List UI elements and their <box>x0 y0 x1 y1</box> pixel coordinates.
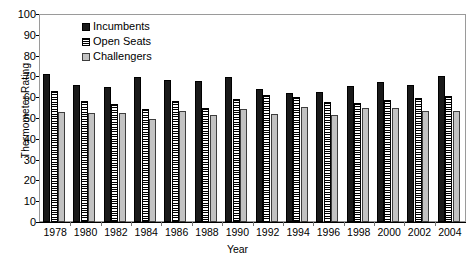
bar-challengers <box>392 108 399 222</box>
x-tick-mark <box>404 222 405 226</box>
legend-label-challengers: Challengers <box>93 51 152 62</box>
x-tick-label: 1990 <box>222 226 252 238</box>
bar-group <box>222 14 252 222</box>
bar-incumbents <box>43 74 50 222</box>
bar-open-seats <box>415 98 422 222</box>
legend-item-incumbents: Incumbents <box>82 19 152 34</box>
y-tick-label: 100 <box>10 10 36 18</box>
x-tick-label: 2002 <box>404 226 434 238</box>
x-tick-label: 1982 <box>101 226 131 238</box>
thermometer-rating-bar-chart: Thermometer Rating 010203040506070809010… <box>0 0 475 261</box>
bar-group <box>344 14 374 222</box>
y-tick-mark <box>36 201 39 202</box>
y-tick-label: 60 <box>10 93 36 101</box>
bar-challengers <box>331 115 338 222</box>
y-tick-mark <box>36 180 39 181</box>
x-tick-mark <box>101 222 102 226</box>
y-tick-mark <box>36 14 39 15</box>
y-tick-mark <box>36 160 39 161</box>
bar-challengers <box>119 113 126 222</box>
legend-item-open-seats: Open Seats <box>82 34 152 49</box>
bar-incumbents <box>377 82 384 222</box>
bar-open-seats <box>51 91 58 222</box>
x-tick-mark <box>222 222 223 226</box>
bar-incumbents <box>286 93 293 222</box>
bar-challengers <box>271 114 278 222</box>
y-tick-mark <box>36 56 39 57</box>
bar-challengers <box>453 111 460 222</box>
x-tick-mark <box>435 222 436 226</box>
x-tick-label: 2004 <box>435 226 465 238</box>
x-tick-label: 1992 <box>253 226 283 238</box>
x-tick-mark <box>344 222 345 226</box>
bar-group <box>435 14 465 222</box>
y-tick-label: 0 <box>10 218 36 226</box>
x-tick-label: 1980 <box>70 226 100 238</box>
bar-challengers <box>88 113 95 222</box>
x-tick-label: 1984 <box>131 226 161 238</box>
legend-swatch-open-seats-icon <box>82 38 90 46</box>
bar-challengers <box>422 111 429 222</box>
x-tick-mark <box>253 222 254 226</box>
x-tick-label: 1986 <box>161 226 191 238</box>
bar-incumbents <box>195 81 202 222</box>
bar-group <box>40 14 70 222</box>
bar-incumbents <box>134 77 141 222</box>
bar-open-seats <box>384 100 391 222</box>
x-tick-label: 1996 <box>313 226 343 238</box>
bar-group <box>283 14 313 222</box>
legend-swatch-incumbents-icon <box>82 23 90 31</box>
x-tick-label: 1988 <box>192 226 222 238</box>
bar-open-seats <box>202 108 209 222</box>
bar-challengers <box>210 115 217 222</box>
x-tick-label: 2000 <box>374 226 404 238</box>
y-tick-label: 20 <box>10 176 36 184</box>
bar-incumbents <box>316 92 323 222</box>
bar-incumbents <box>104 87 111 222</box>
bar-challengers <box>58 112 65 222</box>
bar-challengers <box>362 108 369 222</box>
y-axis-tick-labels: 0102030405060708090100 <box>0 0 36 261</box>
bar-incumbents <box>438 76 445 222</box>
bar-challengers <box>301 107 308 222</box>
bar-group <box>374 14 404 222</box>
bar-group <box>404 14 434 222</box>
bar-group <box>313 14 343 222</box>
y-tick-mark <box>36 35 39 36</box>
bar-challengers <box>240 109 247 222</box>
x-tick-label: 1978 <box>40 226 70 238</box>
bar-challengers <box>179 111 186 222</box>
y-tick-mark <box>36 76 39 77</box>
y-tick-mark <box>36 139 39 140</box>
y-tick-label: 30 <box>10 156 36 164</box>
y-tick-mark <box>36 97 39 98</box>
legend-label-incumbents: Incumbents <box>93 21 150 32</box>
y-tick-label: 40 <box>10 135 36 143</box>
x-tick-mark <box>374 222 375 226</box>
x-tick-label: 1998 <box>344 226 374 238</box>
chart-legend: Incumbents Open Seats Challengers <box>82 19 152 64</box>
bar-open-seats <box>142 109 149 222</box>
y-tick-label: 70 <box>10 72 36 80</box>
bar-open-seats <box>354 103 361 222</box>
x-tick-mark <box>70 222 71 226</box>
y-tick-mark <box>36 118 39 119</box>
bar-incumbents <box>164 80 171 222</box>
y-tick-label: 10 <box>10 197 36 205</box>
bar-incumbents <box>347 86 354 222</box>
bar-incumbents <box>73 85 80 222</box>
x-tick-mark <box>313 222 314 226</box>
x-tick-mark <box>283 222 284 226</box>
bar-open-seats <box>233 99 240 222</box>
bar-incumbents <box>225 77 232 222</box>
x-tick-mark <box>161 222 162 226</box>
legend-swatch-challengers-icon <box>82 53 90 61</box>
bar-open-seats <box>81 101 88 222</box>
legend-label-open-seats: Open Seats <box>93 36 151 47</box>
bar-open-seats <box>172 101 179 222</box>
x-tick-mark <box>192 222 193 226</box>
y-tick-label: 80 <box>10 52 36 60</box>
legend-item-challengers: Challengers <box>82 49 152 64</box>
y-tick-mark <box>36 222 39 223</box>
bar-group <box>253 14 283 222</box>
